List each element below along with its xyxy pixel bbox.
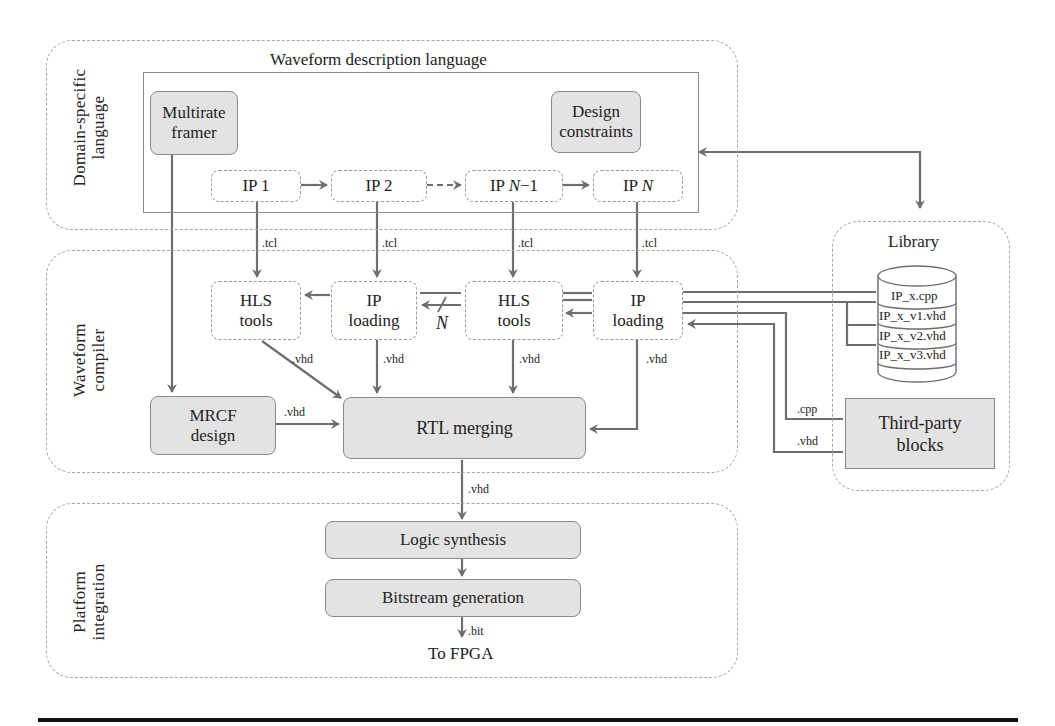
library-entry-ip-x-v1: IP_x_v1.vhd <box>879 308 946 324</box>
edge-label-vhd-third-party: .vhd <box>797 434 818 449</box>
bottom-rule <box>38 718 1018 722</box>
library-entry-ip-x-v2: IP_x_v2.vhd <box>879 328 946 344</box>
design-flow-diagram: Domain-specific language Waveform compil… <box>0 0 1055 726</box>
library-entry-ip-x-cpp: IP_x.cpp <box>891 288 938 304</box>
third-party-blocks-box: Third-party blocks <box>845 398 995 469</box>
library-database-icon <box>0 0 1055 726</box>
library-entry-ip-x-v3: IP_x_v3.vhd <box>879 347 946 363</box>
edge-label-cpp-third-party: .cpp <box>797 402 817 417</box>
